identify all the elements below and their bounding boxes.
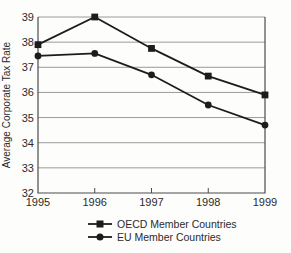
series-line-oecd: [38, 17, 265, 95]
legend-marker-square-oecd: [97, 221, 104, 228]
y-tick-label: 37: [22, 61, 34, 73]
x-tick-label: 1997: [139, 196, 163, 208]
data-marker-square-oecd: [91, 14, 98, 21]
x-tick-label: 1996: [83, 196, 107, 208]
data-marker-circle-eu: [262, 122, 269, 129]
line-chart: 323334353637383919951996199719981999Aver…: [0, 0, 291, 253]
data-marker-square-oecd: [35, 41, 42, 48]
x-tick-label: 1995: [26, 196, 50, 208]
data-marker-square-oecd: [148, 45, 155, 52]
y-tick-label: 38: [22, 36, 34, 48]
corporate-tax-rate-chart: 323334353637383919951996199719981999Aver…: [0, 0, 291, 253]
data-marker-square-oecd: [262, 92, 269, 99]
legend-label-oecd: OECD Member Countries: [117, 218, 237, 230]
x-tick-label: 1998: [196, 196, 220, 208]
data-marker-circle-eu: [205, 102, 212, 109]
data-marker-circle-eu: [148, 71, 155, 78]
legend-label-eu: EU Member Countries: [117, 231, 221, 243]
y-axis-title: Average Corporate Tax Rate: [1, 41, 12, 168]
x-tick-label: 1999: [253, 196, 277, 208]
y-tick-label: 33: [22, 162, 34, 174]
y-tick-label: 36: [22, 86, 34, 98]
y-tick-label: 34: [22, 137, 34, 149]
y-tick-label: 35: [22, 112, 34, 124]
legend-marker-circle-eu: [97, 234, 104, 241]
series-line-eu: [38, 53, 265, 125]
data-marker-square-oecd: [205, 73, 212, 80]
y-tick-label: 39: [22, 11, 34, 23]
axis-box: [38, 17, 265, 193]
data-marker-circle-eu: [91, 50, 98, 57]
data-marker-circle-eu: [35, 53, 42, 60]
